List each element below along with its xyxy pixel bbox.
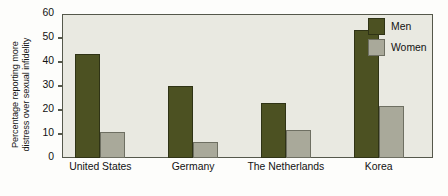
legend-swatch-men (368, 18, 385, 35)
bar-women-the-netherlands[interactable] (286, 130, 311, 158)
bar-women-united-states[interactable] (100, 132, 125, 158)
y-axis-tick-mark (58, 133, 63, 134)
y-axis-tick-mark (58, 109, 63, 110)
y-axis-tick-mark (58, 85, 63, 86)
y-axis-tick-label: 50 (42, 31, 54, 42)
x-axis-label: Korea (309, 161, 448, 172)
bar-group (75, 14, 125, 158)
bar-chart-figure: Percentage reporting more distress over … (0, 0, 448, 196)
bar-men-united-states[interactable] (75, 54, 100, 158)
y-axis-tick-label: 60 (42, 7, 54, 18)
legend-swatch-women (368, 39, 385, 56)
y-axis-tick-mark (58, 37, 63, 38)
bar-group (261, 14, 311, 158)
y-axis-tick-label: 20 (42, 103, 54, 114)
y-axis-tick-label: 30 (42, 79, 54, 90)
y-axis-tick-label: 10 (42, 127, 54, 138)
legend-item-women[interactable]: Women (368, 39, 427, 56)
legend-label: Women (391, 42, 427, 53)
y-axis-tick-label: 40 (42, 55, 54, 66)
y-axis-title-text: Percentage reporting more distress over … (10, 38, 31, 152)
y-axis-tick-mark (58, 61, 63, 62)
legend-label: Men (391, 21, 411, 32)
bar-men-germany[interactable] (168, 86, 193, 158)
legend: MenWomen (368, 18, 427, 60)
legend-item-men[interactable]: Men (368, 18, 427, 35)
y-axis-title: Percentage reporting more distress over … (10, 15, 31, 175)
bar-women-korea[interactable] (379, 106, 404, 158)
bar-women-germany[interactable] (193, 142, 218, 158)
bar-group (168, 14, 218, 158)
bar-men-the-netherlands[interactable] (261, 103, 286, 158)
